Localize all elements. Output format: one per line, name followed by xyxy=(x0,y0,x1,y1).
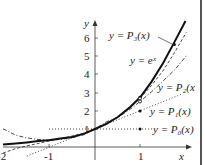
frame-border xyxy=(200,0,202,165)
y-tick-label-2: 2 xyxy=(84,105,90,117)
x-axis-label: x xyxy=(178,150,184,162)
point-p1 xyxy=(139,110,142,113)
label-exp: y = eˣ xyxy=(129,54,157,66)
label-p1: y = P₁(x) xyxy=(149,105,191,118)
x-tick-label-1: 1 xyxy=(138,150,144,162)
label-p0: y = P₀(x) xyxy=(152,123,194,136)
label-p2: y = P₂(x xyxy=(157,81,195,94)
p3-leader-line xyxy=(158,37,174,45)
point-p2 xyxy=(139,100,142,103)
label-p3: y = P₃(x) xyxy=(108,29,150,42)
y-tick-label-4: 4 xyxy=(84,68,90,80)
x-axis-arrow-icon xyxy=(186,145,192,150)
y-axis-arrow-icon xyxy=(93,20,98,26)
x-tick-label-neg2: -2 xyxy=(0,150,6,162)
taylor-polynomial-chart: 1 2 3 4 5 6 y -2 -1 1 x y = P₃(x) y = eˣ… xyxy=(0,0,205,165)
y-axis-label: y xyxy=(83,17,89,29)
x-tick-label-neg1: -1 xyxy=(44,150,53,162)
point-p0 xyxy=(139,128,142,131)
y-tick-label-6: 6 xyxy=(84,32,90,44)
y-tick-label-5: 5 xyxy=(84,50,90,62)
point-p3 xyxy=(139,97,142,100)
y-tick-label-3: 3 xyxy=(84,87,90,99)
